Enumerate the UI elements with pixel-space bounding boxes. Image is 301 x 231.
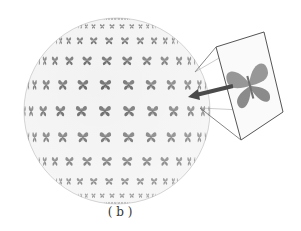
figure-caption: ( b ): [0, 205, 240, 219]
textured-sphere: [24, 18, 210, 204]
figure-canvas: [0, 0, 301, 231]
